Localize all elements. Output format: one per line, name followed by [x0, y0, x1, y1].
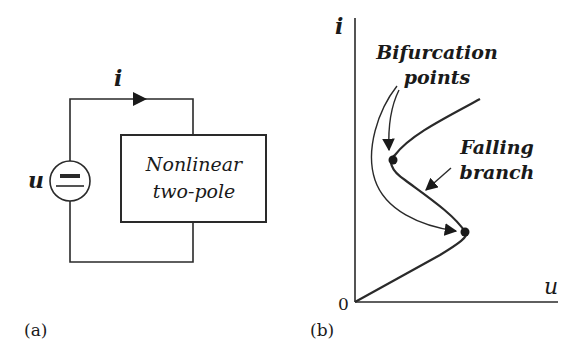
caption-a: (a)	[24, 320, 47, 340]
circuit-wire-top	[70, 99, 193, 161]
bifurcation-arrow-short	[389, 90, 399, 150]
bifurcation-point-lower	[461, 228, 470, 237]
annotation-falling-line1: Falling	[459, 136, 534, 158]
figure: i u Nonlinear two-pole (a) i u 0 Bifurca…	[0, 0, 587, 356]
x-axis-label: u	[544, 274, 558, 299]
box-label-line2: two-pole	[153, 180, 236, 202]
y-axis-label: i	[335, 13, 343, 39]
origin-label: 0	[338, 294, 349, 314]
voltage-source-icon	[50, 161, 90, 201]
caption-b: (b)	[310, 320, 334, 340]
current-label: i	[114, 65, 122, 91]
falling-branch-arrow	[426, 168, 451, 190]
bifurcation-point-upper	[389, 156, 398, 165]
annotation-bifurcation-line2: points	[404, 66, 471, 88]
characteristic-curve	[355, 99, 480, 302]
annotation-bifurcation-line1: Bifurcation	[375, 41, 498, 63]
nonlinear-two-pole-box	[121, 135, 266, 222]
voltage-label: u	[28, 167, 44, 193]
circuit-wire-bottom	[70, 201, 193, 262]
annotation-falling-line2: branch	[460, 161, 535, 183]
box-label-line1: Nonlinear	[145, 153, 244, 175]
current-arrow-icon	[133, 92, 147, 106]
